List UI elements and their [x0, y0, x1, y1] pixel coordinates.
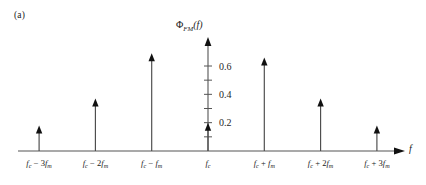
x-axis-label: f: [409, 143, 413, 154]
y-tick-label: 0.4: [219, 89, 232, 100]
x-tick-label: fc − 3fm: [26, 158, 52, 169]
spectral-line: [374, 126, 380, 152]
y-tick-label: 0.6: [219, 61, 232, 72]
spectral-line: [36, 126, 42, 152]
y-axis-arrowhead: [205, 37, 212, 46]
spectral-line-arrowhead: [205, 123, 211, 131]
spectral-line: [92, 99, 98, 151]
spectral-line-arrowhead: [374, 126, 380, 134]
y-tick-label: 0.2: [219, 117, 232, 128]
spectral-line: [261, 58, 267, 152]
figure-panel: (a) fΦFM(f)0.20.40.6fc − 3fmfc − 2fmfc −…: [0, 0, 426, 185]
x-tick-label: fc − 2fm: [83, 158, 109, 169]
spectral-line: [317, 99, 323, 151]
x-axis-arrowhead: [394, 147, 405, 154]
fm-spectrum-plot: fΦFM(f)0.20.40.6fc − 3fmfc − 2fmfc − fmf…: [0, 0, 426, 185]
x-tick-label: fc: [205, 158, 210, 169]
x-tick-label: fc − fm: [141, 158, 163, 169]
y-axis-label: ΦFM(f): [176, 19, 203, 32]
spectral-line: [149, 53, 155, 151]
spectral-line-arrowhead: [317, 99, 323, 107]
x-tick-label: fc + 3fm: [364, 158, 390, 169]
spectral-line-arrowhead: [149, 53, 155, 61]
x-tick-label: fc + fm: [254, 158, 276, 169]
x-tick-label: fc + 2fm: [308, 158, 334, 169]
spectral-line-arrowhead: [92, 99, 98, 107]
spectral-line-arrowhead: [261, 58, 267, 66]
spectral-line-arrowhead: [36, 126, 42, 134]
